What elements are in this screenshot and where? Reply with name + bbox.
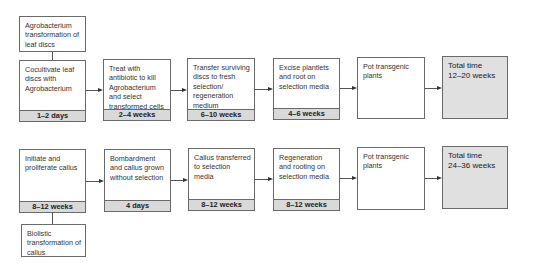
arrow-line <box>255 89 268 90</box>
total-time-box-r2: Total time 24–36 weeks <box>442 146 508 209</box>
total-value: 24–36 weeks <box>448 161 504 171</box>
step-box-r2-3: Callus transferred to selection media 8–… <box>188 148 255 211</box>
step-text: Transfer surviving discs to fresh select… <box>193 63 251 110</box>
arrow-line <box>255 179 268 180</box>
step-duration: 1–2 days <box>20 110 85 121</box>
step-duration: 2–4 weeks <box>104 109 170 120</box>
origin-label: Agrobacterium transformation of leaf dis… <box>25 21 82 49</box>
step-box-r1-1: Cocultivate leaf discs with Agrobacteriu… <box>19 60 86 122</box>
step-box-r1-5: Pot transgenic plants <box>357 57 425 119</box>
step-box-r2-1: Initiate and proliferate callus 8–12 wee… <box>19 149 86 213</box>
step-duration: 8–12 weeks <box>274 199 339 210</box>
step-duration: 6–10 weeks <box>188 109 254 120</box>
arrow-line <box>171 90 182 91</box>
step-text: Bombardment and callus grown without sel… <box>110 154 167 182</box>
step-text: Pot transgenic plants <box>363 62 421 81</box>
step-text: Initiate and proliferate callus <box>25 154 82 173</box>
step-duration: 4 days <box>105 200 170 211</box>
step-text: Treat with antibiotic to kill Agrobacter… <box>109 64 167 111</box>
arrow-line <box>340 178 352 179</box>
step-duration: 8–12 weeks <box>189 199 254 210</box>
arrow-line <box>171 180 183 181</box>
step-text: Excise plantlets and root on selection m… <box>279 63 336 91</box>
arrow-line <box>340 88 352 89</box>
step-text: Pot transgenic plants <box>363 152 421 171</box>
step-text: Callus transferred to selection media <box>194 153 251 181</box>
connector-line <box>52 213 53 224</box>
arrow-line <box>86 181 99 182</box>
step-box-r2-4: Regeneration and rooting on selection me… <box>273 148 340 211</box>
step-box-r1-3: Transfer surviving discs to fresh select… <box>187 58 255 121</box>
total-value: 12–20 weeks <box>448 71 504 81</box>
arrow-line <box>425 178 437 179</box>
origin-biolistic-box: Biolistic transformation of callus <box>21 224 86 257</box>
total-label: Total time <box>448 151 504 161</box>
total-label: Total time <box>448 61 504 71</box>
step-duration: 8–12 weeks <box>20 201 85 212</box>
step-box-r1-2: Treat with antibiotic to kill Agrobacter… <box>103 59 171 121</box>
arrow-line <box>425 88 437 89</box>
step-box-r2-5: Pot transgenic plants <box>357 147 425 210</box>
step-box-r1-4: Excise plantlets and root on selection m… <box>273 58 340 120</box>
arrow-line <box>86 90 98 91</box>
step-box-r2-2: Bombardment and callus grown without sel… <box>104 149 171 212</box>
connector-line <box>52 52 53 60</box>
origin-agrobacterium-box: Agrobacterium transformation of leaf dis… <box>19 16 86 52</box>
total-time-box-r1: Total time 12–20 weeks <box>442 56 508 119</box>
step-text: Cocultivate leaf discs with Agrobacteriu… <box>25 65 82 93</box>
step-duration: 4–6 weeks <box>274 108 339 119</box>
origin-label: Biolistic transformation of callus <box>27 229 82 257</box>
step-text: Regeneration and rooting on selection me… <box>279 153 336 181</box>
